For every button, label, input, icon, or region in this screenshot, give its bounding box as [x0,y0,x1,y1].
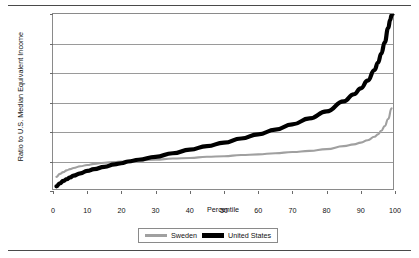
x-axis-tick-mark [156,191,157,194]
x-axis-tick-label: 50 [209,206,239,215]
x-axis-tick-label: 80 [312,206,342,215]
x-axis-tick-mark [224,191,225,194]
x-axis-tick-label: 0 [38,206,68,215]
x-axis-tick-label: 90 [346,206,376,215]
x-axis-tick-mark [361,191,362,194]
x-axis-tick-label: 20 [106,206,136,215]
chart-legend: Sweden United States [138,228,278,243]
x-axis-tick-label: 40 [175,206,205,215]
x-axis-tick-mark [87,191,88,194]
series-lines [53,14,395,191]
x-axis-tick-mark [395,191,396,194]
x-axis-tick-label: 10 [72,206,102,215]
x-axis-tick-label: 60 [243,206,273,215]
x-axis-tick-mark [258,191,259,194]
x-axis-tick-label: 100 [380,206,410,215]
bottom-divider-rule [8,250,411,251]
x-axis-tick-label: 30 [141,206,171,215]
legend-swatch-sweden-icon [145,234,167,236]
x-axis-tick-mark [327,191,328,194]
chart-figure: Ratio to U.S. Median Equivalent Income P… [0,0,419,258]
legend-label-united-states: United States [228,231,271,240]
legend-swatch-united-states-icon [202,233,224,237]
legend-label-sweden: Sweden [171,231,197,240]
y-axis-title: Ratio to U.S. Median Equivalent Income [16,2,25,192]
top-divider-rule [8,5,411,6]
x-axis-tick-mark [53,191,54,194]
x-axis-tick-mark [292,191,293,194]
legend-item-united-states[interactable]: United States [202,231,271,240]
legend-item-sweden[interactable]: Sweden [145,231,197,240]
x-axis-tick-label: 70 [277,206,307,215]
plot-area: 050100150200250300 010203040506070809010… [52,13,394,190]
x-axis-tick-mark [190,191,191,194]
series-line-united-states [56,14,392,186]
x-axis-tick-mark [121,191,122,194]
